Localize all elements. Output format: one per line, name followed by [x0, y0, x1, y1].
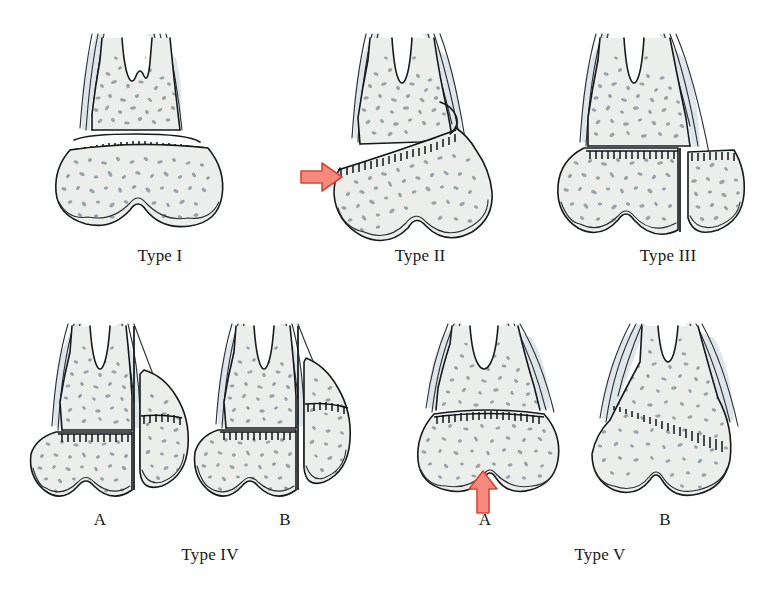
arrow-type-2-container [298, 160, 346, 194]
fracture-fragment-type-4-a [140, 370, 188, 487]
caption-type-5-group: Type V [530, 545, 670, 565]
panel-type-5-b [580, 318, 770, 510]
panel-type-1 [40, 18, 270, 246]
panel-type-4-b [190, 318, 380, 510]
bone-diagram-type-1 [40, 18, 270, 246]
caption-type-2: Type II [350, 246, 490, 266]
fracture-fragment-type-4-b [304, 358, 350, 483]
caption-type-4-a: A [60, 510, 140, 530]
bone-diagram-type-5-b [580, 318, 770, 510]
caption-type-1: Type I [90, 246, 230, 266]
caption-type-5-b: B [625, 510, 705, 530]
panel-type-4-a [26, 318, 216, 510]
caption-type-4-b: B [245, 510, 325, 530]
caption-type-4-group: Type IV [140, 545, 280, 565]
bone-diagram-type-3 [548, 18, 768, 246]
bone-diagram-type-4-b [190, 318, 380, 510]
bone-diagram-type-5-a [408, 318, 598, 510]
panel-type-5-a [408, 318, 598, 510]
arrow-type-5-a-container [466, 468, 500, 516]
epiphysis-main-type-4-b [195, 430, 296, 496]
metaphysis-type-4-b [224, 326, 296, 428]
epiphysis-main-type-4-a [31, 432, 132, 496]
epiphysis-fragment-type-3 [688, 150, 744, 232]
bone-diagram-type-2 [300, 18, 540, 246]
epiphysis-main-type-3 [558, 148, 678, 234]
arrow-right-icon [298, 160, 346, 194]
bone-diagram-type-4-a [26, 318, 216, 510]
panel-type-3 [548, 18, 768, 246]
epiphysis-type-1 [56, 144, 223, 226]
fracture-classification-figure: Type I [0, 0, 772, 596]
metaphysis-type-1 [92, 38, 180, 130]
panel-type-2 [300, 18, 540, 246]
caption-type-3: Type III [598, 246, 738, 266]
arrow-up-icon [466, 468, 500, 516]
metaphysis-type-4-a [60, 326, 132, 430]
